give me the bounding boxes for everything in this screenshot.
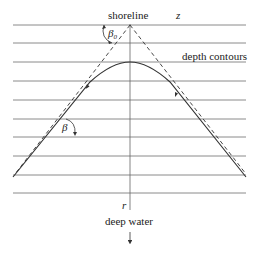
beta0-label: β0 <box>107 27 117 41</box>
beta0-arrow-top <box>102 25 106 29</box>
ray-direction-arrow-right <box>175 92 178 97</box>
depth-contours-label: depth contours <box>182 50 247 62</box>
wave-refraction-diagram: shoreline z depth contours β0 β r deep w… <box>0 0 258 262</box>
deep-water-label: deep water <box>105 215 153 227</box>
shoreline-label: shoreline <box>108 9 148 21</box>
r-axis-label: r <box>122 199 127 211</box>
beta-label: β <box>61 121 68 133</box>
z-axis-label: z <box>175 9 181 21</box>
beta-arrow <box>73 132 77 136</box>
